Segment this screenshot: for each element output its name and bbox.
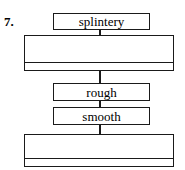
node-label-splintery: splintery [79,15,125,28]
item-number-label: 7. [4,15,14,29]
blank-bottom-inner-rule [25,158,173,159]
blank-top-inner-rule [25,62,173,63]
node-box-smooth[interactable]: smooth [53,107,150,125]
node-box-blank-top[interactable] [24,35,174,71]
connector-blank-top-to-rough [99,71,101,83]
node-box-blank-bottom[interactable] [24,134,174,167]
connector-smooth-to-blank-bottom [99,125,101,134]
diagram-canvas: 7. splintery rough smooth [0,0,185,170]
node-label-smooth: smooth [82,109,120,122]
node-label-rough: rough [86,85,116,98]
node-box-splintery[interactable]: splintery [53,13,150,30]
node-box-rough[interactable]: rough [53,83,150,101]
